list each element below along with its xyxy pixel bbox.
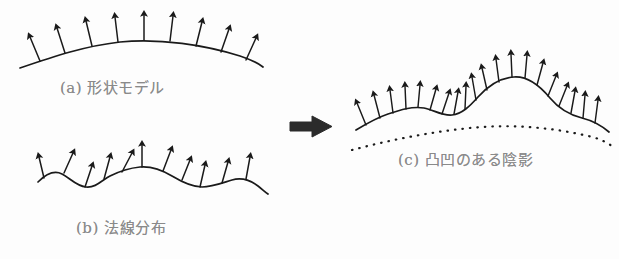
panel-b-surface-curve	[38, 167, 268, 194]
panel-a-shape-model	[20, 15, 263, 68]
panel-b-caption: (b) 法線分布	[76, 216, 166, 237]
panel-c-normal-arrows	[357, 54, 598, 125]
panel-c-caption: (c) 凸凹のある陰影	[398, 148, 533, 169]
panel-a-caption: (a) 形状モデル	[60, 76, 165, 97]
panel-a-surface-curve	[20, 41, 263, 68]
panel-c-bumpy-shading	[352, 54, 612, 150]
figure-container: (a) 形状モデル (b) 法線分布 (c) 凸凹のある陰影	[0, 0, 619, 259]
panel-c-dotted-base-curve	[352, 126, 612, 150]
panel-b-normal-distribution	[38, 145, 268, 194]
panel-c-surface-curve	[356, 77, 609, 132]
right-arrow-icon	[290, 116, 332, 137]
